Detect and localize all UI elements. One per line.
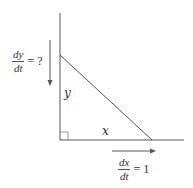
- dy-denominator: dt: [14, 62, 23, 74]
- dx-numerator: dx: [118, 157, 130, 170]
- label-x: x: [102, 125, 109, 137]
- dy-dt-rate: dy dt = ?: [12, 49, 42, 74]
- dx-denominator: dt: [120, 170, 129, 182]
- right-angle-marker: [60, 132, 68, 140]
- down-arrow-icon: [48, 40, 53, 86]
- dx-dt-rate: dx dt = 1: [118, 157, 149, 182]
- dy-rhs: = ?: [27, 54, 42, 69]
- triangle-diagram: [0, 0, 193, 188]
- label-y: y: [64, 87, 71, 99]
- dy-numerator: dy: [12, 49, 24, 62]
- dx-rhs: = 1: [133, 162, 149, 177]
- right-arrow-icon: [112, 149, 156, 154]
